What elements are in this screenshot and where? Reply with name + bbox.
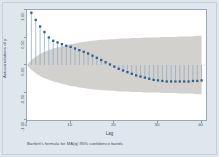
x-axis-title: Lag <box>0 131 219 136</box>
chart-figure: Autocorrelations of y -1.00-0.500.000.50… <box>0 0 219 157</box>
x-tick-mark <box>113 120 114 123</box>
x-tick-label: 30 <box>155 122 160 127</box>
x-tick-mark <box>26 120 27 123</box>
x-tick-mark <box>201 120 202 123</box>
x-tick-label: 0 <box>25 122 27 127</box>
chart-note: Bartlett's formula for MA(q) 95% confide… <box>27 141 123 146</box>
x-tick-mark <box>70 120 71 123</box>
x-tick-label: 10 <box>67 122 72 127</box>
x-tick-label: 40 <box>198 122 203 127</box>
x-tick-mark <box>157 120 158 123</box>
x-tick-label: 20 <box>111 122 116 127</box>
